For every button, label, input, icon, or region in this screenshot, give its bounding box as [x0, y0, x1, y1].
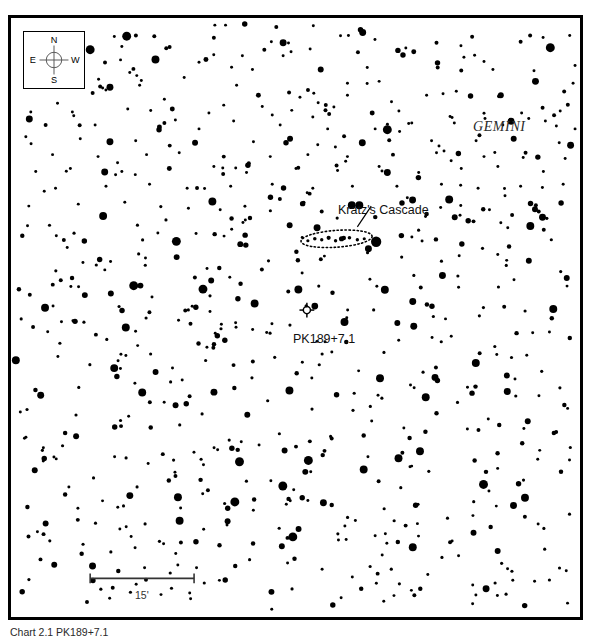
star-dot — [153, 369, 159, 375]
star-dot — [119, 353, 122, 356]
cascade-star-dot — [327, 236, 331, 240]
star-dot — [425, 302, 429, 306]
star-dot — [357, 369, 360, 372]
compass-south-label: S — [51, 75, 57, 85]
star-dot — [462, 56, 465, 59]
star-dot — [95, 263, 98, 266]
star-dot — [366, 455, 369, 458]
star-dot — [566, 602, 569, 605]
star-dot — [538, 449, 541, 452]
star-dot — [416, 175, 421, 180]
chart-caption: Chart 2.1 PK189+7.1 — [10, 626, 108, 637]
star-dot — [365, 245, 372, 252]
star-dot — [168, 144, 172, 148]
star-dot — [359, 29, 366, 36]
star-dot — [466, 386, 469, 389]
star-dot — [384, 169, 391, 176]
star-dot — [434, 237, 438, 241]
star-dot — [31, 325, 35, 329]
star-dot — [442, 92, 445, 95]
star-dot — [440, 183, 443, 186]
star-dot — [382, 600, 385, 603]
star-dot — [225, 506, 230, 511]
star-dot — [183, 76, 186, 79]
star-dot — [234, 321, 237, 324]
star-dot — [286, 289, 290, 293]
star-dot — [392, 594, 395, 597]
star-dot — [172, 458, 175, 461]
star-dot — [127, 415, 130, 418]
star-dot — [130, 535, 133, 538]
star-dot — [360, 466, 368, 474]
star-dot — [375, 285, 378, 288]
star-dot — [43, 190, 46, 193]
star-dot — [188, 394, 192, 398]
star-dot — [125, 456, 128, 459]
star-dot — [147, 310, 151, 314]
star-dot — [294, 445, 298, 449]
star-dot — [400, 256, 403, 259]
star-dot — [24, 135, 27, 138]
star-dot — [232, 363, 236, 367]
star-dot — [434, 366, 438, 370]
star-dot — [163, 98, 166, 101]
star-dot — [109, 550, 112, 553]
star-dot — [438, 145, 441, 148]
star-dot — [183, 309, 187, 313]
star-dot — [409, 543, 417, 551]
star-dot — [472, 500, 475, 503]
star-dot — [290, 50, 293, 53]
star-dot — [223, 235, 226, 238]
star-dot — [366, 66, 369, 69]
star-dot — [459, 68, 463, 72]
star-dot — [152, 34, 156, 38]
star-dot — [186, 187, 189, 190]
star-dot — [103, 61, 107, 65]
star-dot — [456, 151, 461, 156]
star-dot — [439, 272, 446, 279]
star-dot — [483, 585, 490, 592]
star-dot — [170, 587, 173, 590]
star-dot — [82, 238, 87, 243]
star-dot — [488, 208, 491, 211]
star-dot — [256, 93, 261, 98]
star-dot — [549, 305, 557, 313]
star-dot — [215, 333, 220, 338]
star-dot — [369, 405, 372, 408]
star-dot — [296, 258, 300, 262]
star-dot — [511, 579, 514, 582]
star-dot — [294, 371, 298, 375]
star-dot — [502, 305, 506, 309]
star-dot — [37, 392, 44, 399]
star-dot — [179, 540, 183, 544]
star-dot — [429, 303, 434, 308]
star-dot — [41, 449, 44, 452]
star-dot — [423, 430, 427, 434]
star-dot — [195, 186, 199, 190]
star-dot — [440, 556, 443, 559]
star-dot — [58, 342, 61, 345]
star-dot — [397, 339, 400, 342]
star-dot — [160, 593, 163, 596]
star-dot — [167, 478, 171, 482]
star-dot — [159, 205, 162, 208]
star-dot — [212, 53, 215, 56]
star-dot — [119, 367, 122, 370]
star-dot — [523, 309, 526, 312]
star-dot — [496, 253, 499, 256]
star-dot — [353, 392, 356, 395]
star-dot — [321, 352, 324, 355]
star-dot — [173, 474, 177, 478]
star-dot — [504, 388, 511, 395]
star-dot — [410, 323, 417, 330]
star-dot — [421, 371, 424, 374]
nebula-companion-star-dot — [311, 303, 318, 310]
star-dot — [544, 119, 547, 122]
star-dot — [42, 459, 45, 462]
star-dot — [332, 106, 335, 109]
star-dot — [324, 108, 328, 112]
star-dot — [487, 417, 490, 420]
star-dot — [558, 141, 561, 144]
star-dot — [101, 499, 104, 502]
star-dot — [238, 282, 242, 286]
